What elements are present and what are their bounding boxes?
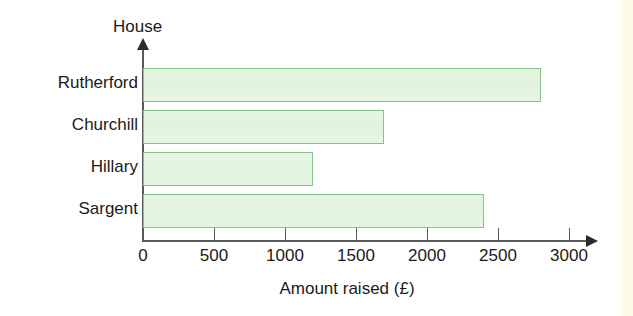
- x-axis-line: [142, 240, 594, 242]
- x-tick-label: 1000: [266, 246, 304, 266]
- x-tick-label: 3000: [550, 246, 588, 266]
- x-tick-mark: [498, 228, 499, 240]
- x-tick-mark: [427, 228, 428, 240]
- category-label-hillary: Hillary: [91, 157, 138, 177]
- x-tick-label: 2500: [479, 246, 517, 266]
- category-label-sargent: Sargent: [78, 199, 138, 219]
- x-tick-label: 0: [138, 246, 147, 266]
- x-tick-label: 2000: [408, 246, 446, 266]
- y-axis-title: House: [113, 17, 162, 37]
- x-axis-title: Amount raised (£): [142, 279, 552, 299]
- bar-rutherford: [143, 68, 541, 102]
- x-tick-mark: [569, 228, 570, 240]
- category-label-rutherford: Rutherford: [58, 73, 138, 93]
- x-tick-mark: [285, 228, 286, 240]
- x-tick-label: 1500: [337, 246, 375, 266]
- chart-page: House Amount raised (£) 0500100015002000…: [0, 0, 633, 316]
- category-label-churchill: Churchill: [72, 115, 138, 135]
- y-axis-arrow-icon: [137, 38, 149, 50]
- bar-churchill: [143, 110, 384, 144]
- x-tick-label: 500: [200, 246, 228, 266]
- bar-sargent: [143, 194, 484, 228]
- x-tick-mark: [143, 228, 144, 240]
- x-tick-mark: [214, 228, 215, 240]
- bar-hillary: [143, 152, 313, 186]
- horizontal-bar-chart: House Amount raised (£) 0500100015002000…: [0, 0, 633, 316]
- x-tick-mark: [356, 228, 357, 240]
